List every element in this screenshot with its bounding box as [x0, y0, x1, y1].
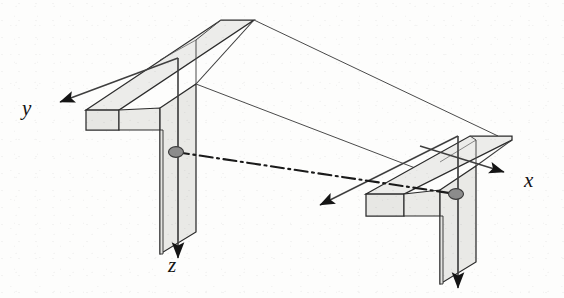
- axis-label-z: z: [168, 255, 176, 276]
- shear-center-dot-right: [449, 189, 464, 200]
- edge-flange-near-long: [196, 84, 436, 176]
- diagram-canvas: [0, 0, 564, 298]
- right-web-side-face: [440, 216, 443, 284]
- right-section: [366, 136, 512, 284]
- left-section: [86, 20, 254, 254]
- left-web-side-face: [160, 130, 163, 254]
- right-flange-near-face: [366, 194, 404, 216]
- edge-top-flange-long: [254, 20, 498, 136]
- shear-center-dot-left: [169, 147, 184, 158]
- axis-label-y: y: [22, 98, 31, 119]
- left-flange-under-strip: [119, 108, 160, 130]
- axis-label-x: x: [524, 170, 533, 191]
- shear-center-diagram: y x z: [0, 0, 564, 298]
- right-flange-under-strip: [404, 190, 440, 216]
- left-flange-near-face: [86, 110, 119, 130]
